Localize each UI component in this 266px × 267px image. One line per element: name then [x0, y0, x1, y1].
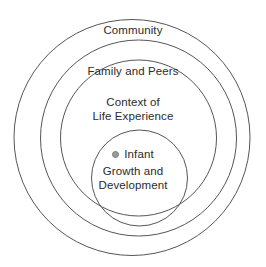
ring-label-context-of-life-experience: Context of Life Experience — [0, 96, 266, 123]
ring-label-context-line2: Life Experience — [0, 110, 266, 124]
ring-label-family-and-peers: Family and Peers — [0, 65, 266, 79]
ring-label-growth-and-development: Growth and Development — [0, 165, 266, 192]
concentric-rings-graphic — [0, 0, 266, 267]
nested-circles-diagram: Community Family and Peers Context of Li… — [0, 0, 266, 267]
ring-context-of-life-experience-circle — [61, 60, 217, 216]
ring-label-growth-line2: Development — [0, 179, 266, 193]
ring-community-circle — [14, 20, 250, 256]
bullet-dot-icon — [112, 151, 119, 158]
ring-label-infant-text: Infant — [124, 148, 153, 162]
ring-label-infant-row: Infant — [0, 148, 266, 162]
ring-label-context-line1: Context of — [106, 96, 159, 108]
ring-label-growth-line1: Growth and — [103, 165, 163, 177]
ring-label-community: Community — [0, 24, 266, 38]
